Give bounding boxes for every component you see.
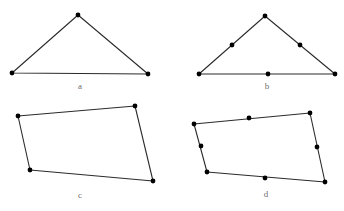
- vertex-marker-a-left-base-vertex: [10, 71, 15, 76]
- midpoint-marker-b-right-edge-midpoint: [298, 43, 303, 48]
- vertex-marker-d-top-right-vertex: [308, 111, 313, 116]
- panel-b: [197, 14, 338, 77]
- panel-c: [16, 104, 156, 184]
- midpoint-marker-d-left-edge-midpoint: [199, 144, 204, 149]
- shape-outline-b: [199, 16, 335, 74]
- panel-label-a: a: [70, 82, 90, 91]
- midpoint-marker-b-base-edge-midpoint: [266, 72, 271, 77]
- panel-label-c: c: [70, 191, 90, 200]
- shape-outline-a: [12, 15, 148, 74]
- vertex-marker-b-right-base-vertex: [333, 72, 338, 77]
- vertex-marker-d-top-left-vertex: [192, 122, 197, 127]
- shape-outline-c: [18, 106, 153, 181]
- vertex-marker-c-top-right-vertex: [133, 104, 138, 109]
- figure-root: a b c d: [0, 0, 344, 211]
- shape-outline-d: [194, 113, 325, 182]
- panel-label-b: b: [257, 82, 277, 91]
- vertex-marker-b-left-base-vertex: [197, 72, 202, 77]
- panel-label-d: d: [256, 190, 276, 199]
- vertex-marker-c-top-left-vertex: [16, 114, 21, 119]
- midpoint-marker-d-top-edge-midpoint: [247, 116, 252, 121]
- midpoint-marker-b-left-edge-midpoint: [230, 43, 235, 48]
- panel-d: [192, 111, 328, 185]
- figure-canvas: [0, 0, 344, 211]
- vertex-marker-b-apex-vertex: [263, 14, 268, 19]
- panels-group: [10, 13, 338, 185]
- midpoint-marker-d-bottom-edge-midpoint: [263, 176, 268, 181]
- vertex-marker-c-bottom-right-vertex: [151, 179, 156, 184]
- vertex-marker-d-bottom-right-vertex: [323, 180, 328, 185]
- panel-a: [10, 13, 151, 77]
- vertex-marker-c-bottom-left-vertex: [28, 168, 33, 173]
- vertex-marker-d-bottom-left-vertex: [205, 170, 210, 175]
- vertex-marker-a-apex-vertex: [76, 13, 81, 18]
- midpoint-marker-d-right-edge-midpoint: [315, 145, 320, 150]
- vertex-marker-a-right-base-vertex: [146, 72, 151, 77]
